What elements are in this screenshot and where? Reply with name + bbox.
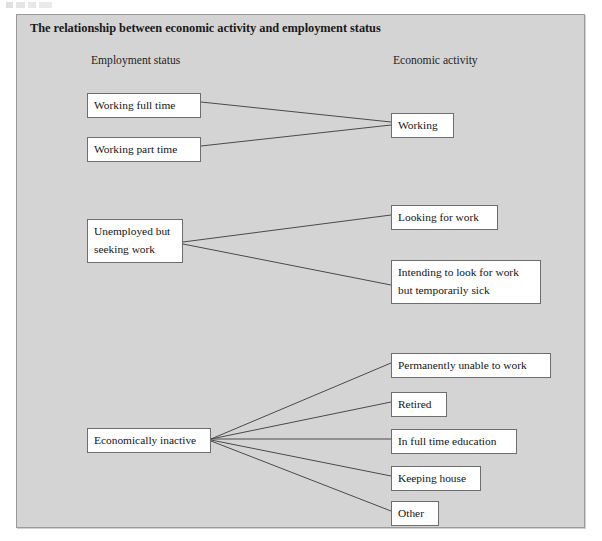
diagram-panel: The relationship between economic activi… [16,14,585,528]
edge-working-part-time-to-working [201,125,391,146]
node-label: Economically inactive [94,434,196,446]
edge-inactive-to-keeping-house [211,440,391,476]
node-label: In full time education [398,435,496,447]
node-in-full-time-education[interactable]: In full time education [391,429,517,454]
column-header-economic-activity: Economic activity [393,54,478,67]
page-title: The relationship between economic activi… [30,21,381,36]
node-label: Keeping house [398,472,466,484]
node-economically-inactive[interactable]: Economically inactive [87,428,211,453]
node-label: Unemployed but [94,225,170,237]
node-permanently-unable-to-work[interactable]: Permanently unable to work [391,353,551,378]
node-label: Intending to look for work [398,266,519,278]
node-intending-to-look-for-work[interactable]: Intending to look for work but temporari… [391,260,541,304]
edge-working-full-time-to-working [201,102,391,122]
node-working[interactable]: Working [391,113,454,138]
node-label-line2: but temporarily sick [398,281,534,299]
node-label: Looking for work [398,211,479,223]
node-label: Working [398,119,438,131]
node-looking-for-work[interactable]: Looking for work [391,205,498,230]
figure-canvas: The relationship between economic activi… [0,0,602,541]
node-working-part-time[interactable]: Working part time [87,137,201,162]
node-label: Working part time [94,143,177,155]
edge-inactive-to-permanently-unable [211,363,391,439]
edge-unemployed-to-temporarily-sick [183,244,391,285]
node-label-line2: seeking work [94,240,176,258]
node-label: Working full time [94,99,175,111]
node-label: Other [398,507,424,519]
scan-artifact [6,2,52,8]
edge-inactive-to-other [211,441,391,511]
node-retired[interactable]: Retired [391,392,447,417]
node-working-full-time[interactable]: Working full time [87,93,201,118]
node-unemployed-but-seeking-work[interactable]: Unemployed but seeking work [87,219,183,263]
column-header-employment-status: Employment status [91,54,180,67]
node-other[interactable]: Other [391,501,439,526]
node-keeping-house[interactable]: Keeping house [391,466,481,491]
edge-unemployed-to-looking-for-work [183,215,391,242]
edge-inactive-to-retired [211,402,391,439]
node-label: Permanently unable to work [398,359,527,371]
node-label: Retired [398,398,432,410]
